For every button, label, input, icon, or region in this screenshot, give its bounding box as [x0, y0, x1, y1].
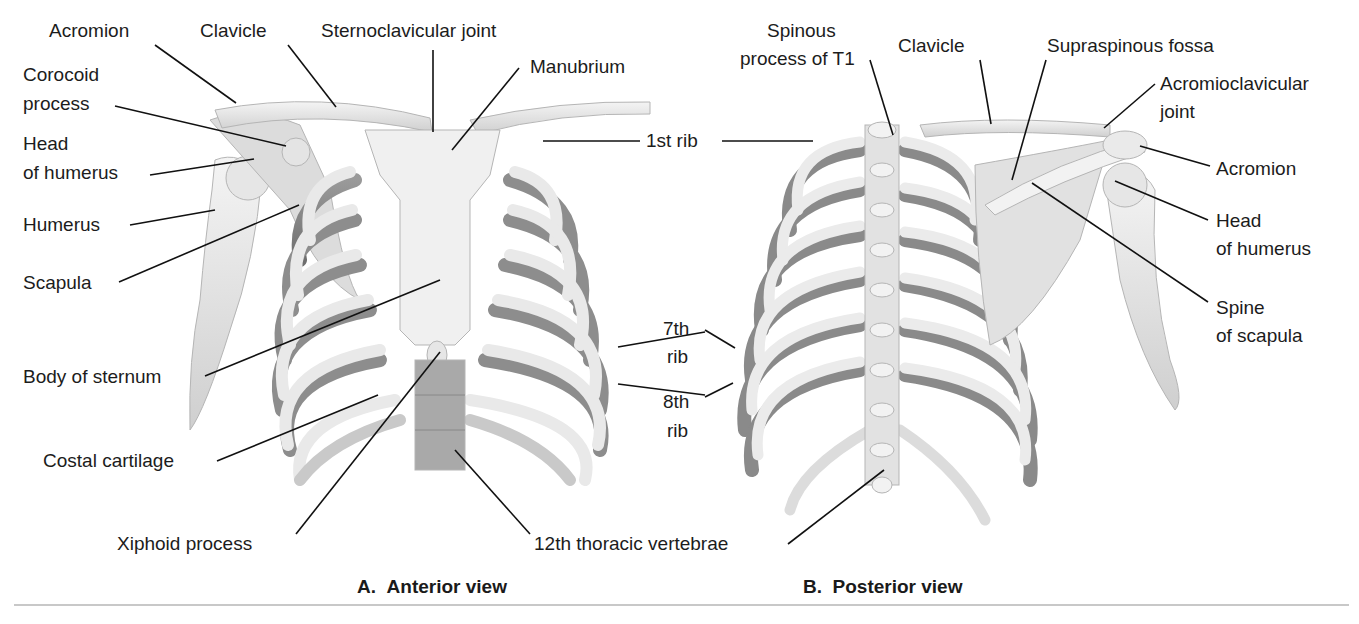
caption-posterior-view: B. Posterior view [803, 576, 962, 598]
label-acromioclavicular-joint-line2: joint [1160, 101, 1195, 123]
label-eighth-rib-line1: 8th [663, 391, 689, 413]
label-corocoid-process-line2: process [23, 93, 90, 115]
skeleton-illustration [0, 0, 1359, 624]
label-eighth-rib-line2: rib [667, 420, 688, 442]
label-xiphoid-process: Xiphoid process [117, 533, 252, 555]
label-clavicle-posterior: Clavicle [898, 35, 965, 57]
label-seventh-rib-line1: 7th [663, 318, 689, 340]
bottom-divider [14, 604, 1349, 606]
label-head-of-humerus-line2: of humerus [23, 162, 118, 184]
anterior-view-drawing [190, 102, 650, 480]
label-acromion: Acromion [49, 20, 129, 42]
label-twelfth-thoracic-vertebrae: 12th thoracic vertebrae [534, 533, 728, 555]
label-clavicle: Clavicle [200, 20, 267, 42]
label-manubrium: Manubrium [530, 56, 625, 78]
label-acromion-posterior: Acromion [1216, 158, 1296, 180]
label-spine-of-scapula-line1: Spine [1216, 297, 1265, 319]
label-body-of-sternum: Body of sternum [23, 366, 161, 388]
label-spine-of-scapula-line2: of scapula [1216, 325, 1303, 347]
caption-posterior-text: Posterior view [833, 576, 963, 597]
label-acromioclavicular-joint-line1: Acromioclavicular [1160, 73, 1309, 95]
label-spinous-process-line2: process of T1 [740, 48, 855, 70]
caption-anterior-view: A. Anterior view [357, 576, 507, 598]
label-seventh-rib-line2: rib [667, 346, 688, 368]
label-spinous-process-line1: Spinous [767, 20, 836, 42]
label-head-of-humerus-posterior-line1: Head [1216, 210, 1261, 232]
label-supraspinous-fossa: Supraspinous fossa [1047, 35, 1214, 57]
label-costal-cartilage: Costal cartilage [43, 450, 174, 472]
thoracic-cage-figure: Acromion Clavicle Sternoclavicular joint… [0, 0, 1359, 624]
label-humerus: Humerus [23, 214, 100, 236]
label-head-of-humerus-posterior-line2: of humerus [1216, 238, 1311, 260]
posterior-view-drawing [744, 120, 1179, 520]
label-head-of-humerus-line1: Head [23, 133, 68, 155]
caption-anterior-text: Anterior view [387, 576, 507, 597]
label-sternoclavicular-joint: Sternoclavicular joint [321, 20, 496, 42]
label-first-rib: 1st rib [646, 130, 698, 152]
caption-posterior-letter: B. [803, 576, 822, 597]
label-corocoid-process-line1: Corocoid [23, 64, 99, 86]
caption-anterior-letter: A. [357, 576, 376, 597]
label-scapula: Scapula [23, 272, 92, 294]
